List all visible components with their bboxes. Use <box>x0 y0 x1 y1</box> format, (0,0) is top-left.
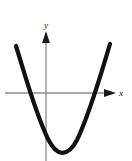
x-axis-label: x <box>118 88 123 98</box>
parabola-figure: x y <box>0 0 132 161</box>
y-axis-label: y <box>43 20 48 30</box>
y-axis-arrowhead <box>42 31 50 43</box>
graph-canvas: x y <box>0 0 132 161</box>
parabola-curve <box>16 44 110 153</box>
x-axis-arrowhead <box>104 89 116 97</box>
